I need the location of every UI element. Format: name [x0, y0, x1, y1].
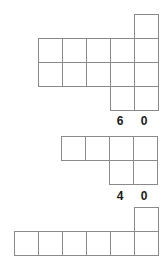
grid-cell — [62, 38, 87, 63]
digit-label: 4 — [113, 189, 127, 203]
grid-cell — [134, 231, 159, 256]
grid-cell — [134, 86, 159, 111]
grid-cell — [38, 231, 63, 256]
grid-cell — [109, 160, 134, 185]
grid-cell — [38, 38, 63, 63]
grid-cell — [110, 38, 135, 63]
digit-label: 0 — [137, 114, 151, 128]
bottom-grid-shape — [14, 207, 159, 256]
grid-cell — [61, 136, 86, 161]
grid-cell — [134, 38, 159, 63]
middle-grid-shape — [61, 136, 158, 185]
grid-cell — [86, 231, 111, 256]
top-grid-shape — [38, 14, 159, 111]
grid-cell — [134, 62, 159, 87]
grid-cell — [86, 38, 111, 63]
grid-cell — [86, 62, 111, 87]
digit-label: 0 — [137, 189, 151, 203]
grid-cell — [85, 136, 110, 161]
grid-cell — [110, 231, 135, 256]
grid-cell — [133, 160, 158, 185]
grid-cell — [109, 136, 134, 161]
grid-cell — [110, 62, 135, 87]
grid-cell — [62, 62, 87, 87]
grid-cell — [134, 14, 159, 39]
grid-cell — [38, 62, 63, 87]
diagram-canvas: 6040 — [0, 0, 164, 271]
grid-cell — [62, 231, 87, 256]
digit-label: 6 — [113, 114, 127, 128]
grid-cell — [14, 231, 39, 256]
grid-cell — [134, 207, 159, 232]
grid-cell — [133, 136, 158, 161]
grid-cell — [110, 86, 135, 111]
